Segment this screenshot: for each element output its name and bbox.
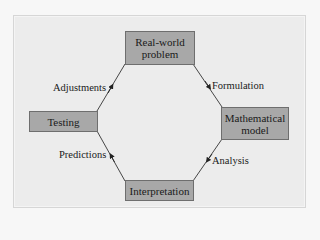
arrow-formulation-icon [205, 81, 210, 88]
node-testing-label: Testing [47, 116, 79, 128]
node-real-world-problem: Real-world problem [125, 31, 195, 65]
node-mathematical-model: Mathematical model [221, 107, 289, 140]
node-real-world-line-1: Real-world [135, 36, 184, 48]
node-math-model-line-1: Mathematical [225, 112, 285, 124]
arrow-adjustments-icon [108, 86, 112, 93]
node-interpretation: Interpretation [125, 180, 194, 201]
node-testing: Testing [29, 111, 98, 132]
edge-label-adjustments: Adjustments [53, 82, 106, 94]
edge-label-formulation: Formulation [212, 80, 264, 92]
node-real-world-line-2: problem [135, 48, 184, 60]
arrow-predictions-icon [111, 156, 115, 163]
edge-label-predictions: Predictions [59, 149, 106, 161]
node-interpretation-label: Interpretation [130, 185, 190, 197]
edge-label-analysis: Analysis [212, 155, 249, 167]
node-math-model-line-2: model [225, 124, 285, 136]
